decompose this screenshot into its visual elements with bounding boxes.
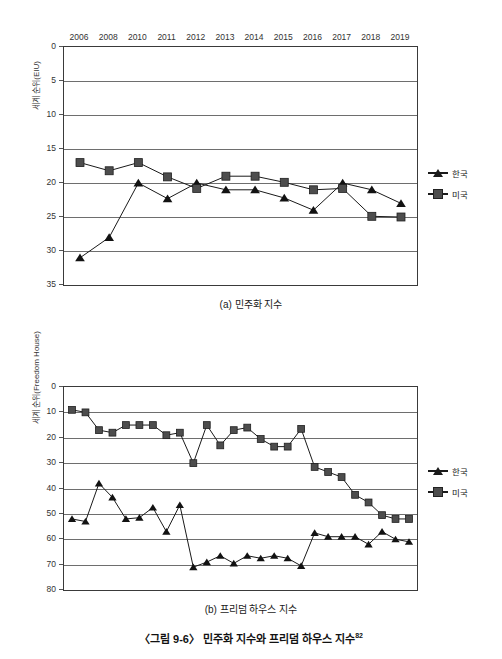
data-point-marker (69, 406, 76, 413)
data-point-marker (193, 184, 201, 192)
data-point-marker (176, 501, 184, 508)
data-point-marker (149, 504, 157, 511)
legend-item-korea: 한국 (428, 166, 468, 180)
y-axis-tick-label: 15 (0, 143, 56, 153)
data-point-marker (109, 429, 116, 436)
y-axis-tick-label: 0 (0, 41, 56, 51)
figure-footnote-marker: 82 (355, 632, 363, 639)
data-point-marker (104, 233, 114, 241)
data-point-marker (378, 528, 386, 535)
y-axis-tick-label: 10 (0, 406, 56, 416)
x-axis-tick-label: 2015 (274, 32, 293, 42)
data-point-marker (311, 529, 319, 536)
y-axis-tick-label: 40 (0, 483, 56, 493)
x-axis-tick-label: 2008 (99, 32, 118, 42)
data-point-marker (338, 474, 345, 481)
legend-item-usa: 미국 (428, 485, 468, 499)
square-marker-icon (428, 491, 448, 492)
chart-b-plot-area (63, 386, 418, 591)
legend-item-usa: 미국 (428, 187, 468, 201)
chart-freedom-house-index: 세계 순위(Freedom House) 01020304050607080 1… (0, 326, 502, 626)
data-point-marker (149, 422, 156, 429)
data-point-marker (284, 443, 291, 450)
x-axis-tick-label: 2018 (361, 32, 380, 42)
triangle-marker-icon (428, 470, 448, 471)
square-marker-icon (428, 193, 448, 194)
data-point-marker (105, 167, 113, 175)
chart-b-caption: (b) 프리덤 하우스 지수 (0, 601, 502, 616)
data-point-marker (123, 422, 130, 429)
chart-a-caption: (a) 민주화 지수 (0, 296, 502, 311)
figure-page: 세계 순위(EIU) 05101520253035 20062008201020… (0, 0, 502, 659)
y-axis-tick-label: 80 (0, 584, 56, 594)
data-point-marker (309, 186, 317, 194)
y-axis-tick-label: 25 (0, 211, 56, 221)
data-point-marker (243, 552, 251, 559)
data-point-marker (162, 528, 170, 535)
data-point-marker (96, 427, 103, 434)
figure-caption-text: 〈그림 9-6〉 민주화 지수와 프리덤 하우스 지수 (139, 633, 355, 645)
data-point-marker (222, 172, 230, 180)
x-axis-tick-label: 2006 (70, 32, 89, 42)
data-point-marker (95, 480, 103, 487)
data-point-marker (280, 178, 288, 186)
x-axis-tick-label: 2017 (332, 32, 351, 42)
data-point-marker (68, 515, 76, 522)
data-point-marker (189, 564, 197, 571)
data-point-marker (279, 194, 289, 202)
y-axis-tick-label: 0 (0, 381, 56, 391)
data-point-marker (244, 424, 251, 431)
legend-label-usa: 미국 (452, 486, 468, 498)
x-axis-tick-label: 2010 (128, 32, 147, 42)
data-point-marker (216, 552, 224, 559)
x-axis-tick-label: 2014 (245, 32, 264, 42)
chart-b-series-layer (64, 387, 419, 592)
chart-a-y-axis-title: 세계 순위(EIU) (30, 61, 41, 110)
x-axis-tick-label: 2012 (186, 32, 205, 42)
figure-caption: 〈그림 9-6〉 민주화 지수와 프리덤 하우스 지수82 (0, 630, 502, 646)
x-axis-tick-label: 2016 (303, 32, 322, 42)
data-point-marker (163, 194, 173, 202)
chart-b-legend: 한국 미국 (428, 464, 468, 506)
y-axis-tick-label: 50 (0, 508, 56, 518)
data-point-marker (396, 199, 406, 207)
data-point-marker (203, 422, 210, 429)
y-axis-tick-label: 30 (0, 245, 56, 255)
data-point-marker (230, 427, 237, 434)
data-point-marker (339, 184, 347, 192)
x-axis-tick-label: 2011 (157, 32, 175, 42)
chart-democracy-index: 세계 순위(EIU) 05101520253035 20062008201020… (0, 0, 502, 320)
y-axis-tick-label: 20 (0, 432, 56, 442)
data-point-marker (392, 516, 399, 523)
chart-a-series-layer (64, 47, 419, 287)
y-axis-tick-label: 35 (0, 279, 56, 289)
x-axis-tick-label: 2013 (215, 32, 234, 42)
data-point-marker (230, 560, 238, 567)
y-axis-tick-label: 20 (0, 177, 56, 187)
triangle-marker-icon (428, 172, 448, 173)
data-point-marker (203, 558, 211, 565)
data-point-marker (82, 409, 89, 416)
data-point-marker (251, 172, 259, 180)
data-point-marker (297, 562, 305, 569)
y-axis-tick-label: 30 (0, 457, 56, 467)
data-point-marker (257, 436, 264, 443)
data-point-marker (406, 516, 413, 523)
legend-label-usa: 미국 (452, 188, 468, 200)
data-point-marker (270, 552, 278, 559)
data-point-marker (217, 442, 224, 449)
data-point-marker (190, 460, 197, 467)
chart-a-legend: 한국 미국 (428, 166, 468, 208)
data-point-marker (397, 213, 405, 221)
data-point-marker (136, 422, 143, 429)
data-point-marker (325, 469, 332, 476)
y-axis-tick-label: 60 (0, 533, 56, 543)
data-point-marker (75, 254, 85, 262)
y-axis-tick-label: 5 (0, 75, 56, 85)
data-point-marker (176, 429, 183, 436)
data-point-marker (368, 212, 376, 220)
data-point-marker (134, 179, 144, 187)
data-point-marker (163, 432, 170, 439)
data-point-marker (352, 491, 359, 498)
data-point-marker (134, 159, 142, 167)
